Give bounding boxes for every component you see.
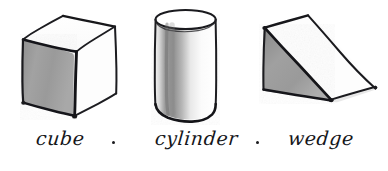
cylinder-side-left [155, 20, 156, 105]
cube-corner-blot [72, 114, 77, 118]
wedge-corner-blot-bottom [329, 98, 334, 102]
cube-edge-vertical-center [75, 52, 77, 116]
cylinder-side-right [216, 20, 217, 104]
caption-separator-dot-1 [112, 141, 115, 144]
cube-edge-vertical-left [22, 40, 23, 103]
cylinder-shade-streak [166, 24, 168, 114]
sketch-sheet: cube cylinder wedge [0, 0, 388, 171]
cylinder-figure [155, 10, 216, 122]
cube-figure [21, 15, 117, 118]
wedge-figure [262, 15, 377, 102]
label-wedge: wedge [287, 127, 355, 149]
label-cylinder: cylinder [154, 127, 239, 149]
wedge-corner-blot-left [262, 26, 267, 30]
cylinder-shade-streak-inner [172, 25, 173, 113]
label-cube: cube [35, 127, 86, 149]
wedge-corner-blot-tip [373, 86, 377, 89]
cube-corner-blot-left [21, 101, 25, 105]
caption-row: cube cylinder wedge [0, 127, 388, 171]
caption-separator-dot-2 [256, 141, 259, 144]
cylinder-body [155, 20, 216, 120]
